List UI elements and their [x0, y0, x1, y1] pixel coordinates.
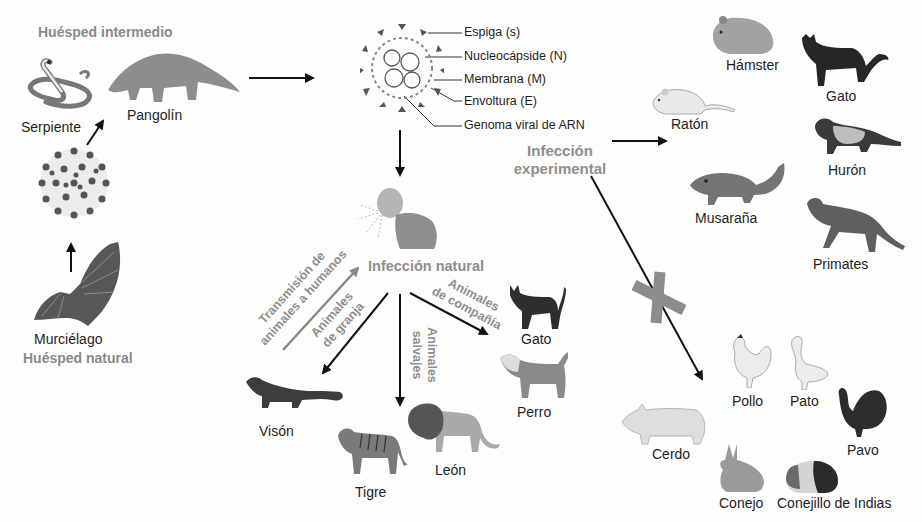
label-rabbit: Conejo [719, 495, 763, 511]
arrow-virus-to-intermediate [87, 121, 103, 145]
cat-experimental-icon [800, 32, 890, 88]
label-cat-experimental: Gato [826, 88, 856, 104]
intermediate-host-title: Huésped intermedio [38, 24, 173, 40]
label-membrane: Membrana (M) [464, 72, 546, 86]
dog-icon [496, 350, 574, 400]
label-pig: Cerdo [652, 446, 690, 462]
x-mark-icon [634, 272, 684, 323]
pangolin-icon [106, 48, 242, 106]
lion-icon [406, 402, 502, 456]
ferret-icon [811, 116, 903, 156]
experimental-infection-title: Infección experimental [512, 142, 608, 178]
label-lion: León [435, 462, 466, 478]
sars-cov-2-transmission-diagram: Huésped intermedio Serpiente Pangolín Mu… [0, 0, 922, 523]
label-spike: Espiga (s) [464, 25, 520, 39]
duck-icon [786, 334, 830, 390]
hamster-icon [711, 14, 777, 56]
label-mink: Visón [259, 423, 294, 439]
label-tiger: Tigre [355, 484, 386, 500]
cat-pet-icon [506, 281, 566, 331]
mouse-icon [651, 86, 737, 116]
label-wild-animals: Animales salvajes [409, 315, 439, 395]
natural-infection-title: Infección natural [368, 257, 484, 275]
sneezing-person-icon [356, 183, 446, 255]
guinea-pig-icon [784, 459, 840, 495]
label-nucleocapsid: Nucleocápside (N) [464, 49, 567, 63]
label-turkey: Pavo [847, 442, 879, 458]
snake-icon [22, 52, 100, 116]
label-bat: Murciélago [34, 331, 102, 347]
arrow-to-not-susceptible [591, 176, 702, 379]
pig-icon [620, 398, 706, 448]
tiger-icon [336, 426, 408, 478]
rabbit-icon [715, 442, 767, 494]
natural-host-title: Huésped natural [23, 350, 133, 366]
label-shrew: Musaraña [695, 210, 757, 226]
label-hamster: Hámster [726, 57, 779, 73]
coronavirus-particle-icon [36, 145, 112, 221]
label-pangolin: Pangolín [127, 107, 182, 123]
primate-icon [803, 196, 909, 254]
label-cat-pet: Gato [521, 331, 551, 347]
bat-icon [30, 240, 124, 328]
label-duck: Pato [790, 393, 819, 409]
label-guinea-pig: Conejillo de Indias [777, 495, 891, 511]
label-dog: Perro [517, 404, 551, 420]
label-snake: Serpiente [21, 119, 81, 135]
label-mouse: Ratón [671, 116, 708, 132]
label-rna-genome: Genoma viral de ARN [464, 118, 585, 132]
mink-icon [244, 374, 346, 410]
shrew-icon [688, 161, 794, 209]
chicken-icon [729, 334, 773, 388]
turkey-icon [833, 383, 889, 439]
label-envelope: Envoltura (E) [464, 94, 537, 108]
label-ferret: Hurón [828, 162, 866, 178]
label-chicken: Pollo [732, 393, 763, 409]
label-primates: Primates [813, 256, 868, 272]
coronavirus-structure-icon [360, 18, 444, 114]
